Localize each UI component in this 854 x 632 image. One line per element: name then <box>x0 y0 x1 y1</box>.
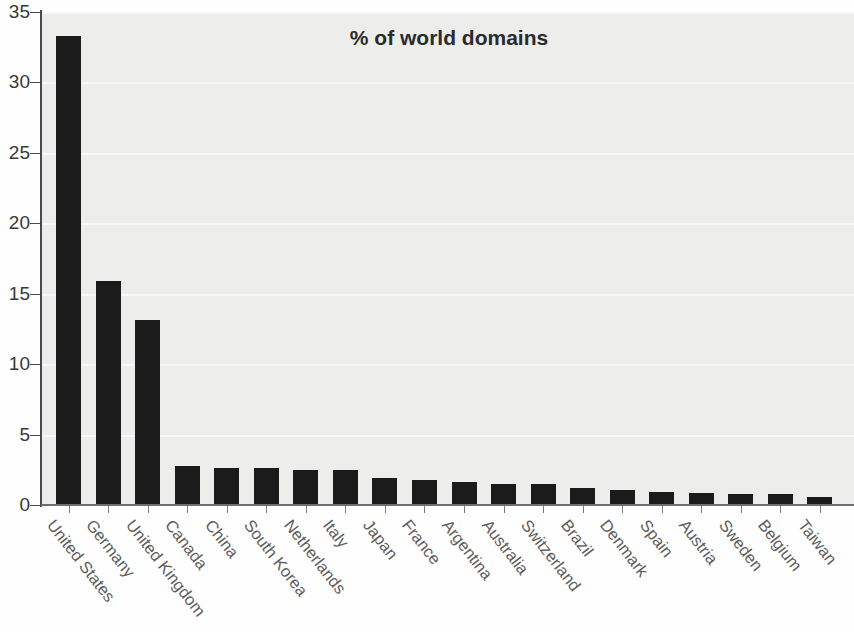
y-tick-mark <box>30 12 40 13</box>
bar <box>135 320 160 505</box>
bar <box>610 490 635 505</box>
bar <box>214 468 239 505</box>
bar <box>372 478 397 505</box>
y-tick-label: 30 <box>0 71 30 93</box>
x-tick-label: Spain <box>636 516 677 561</box>
x-tick-mark <box>227 506 228 513</box>
x-tick-mark <box>464 506 465 513</box>
y-axis-line <box>40 10 42 507</box>
bar <box>649 492 674 505</box>
x-tick-mark <box>543 506 544 513</box>
x-tick-label: Italy <box>319 516 353 552</box>
bar <box>531 484 556 505</box>
x-tick-mark <box>504 506 505 513</box>
bar <box>333 470 358 505</box>
y-tick-label: 10 <box>0 353 30 375</box>
y-tick-label: 0 <box>0 494 30 516</box>
x-tick-mark <box>701 506 702 513</box>
x-tick-mark <box>345 506 346 513</box>
x-tick-mark <box>780 506 781 513</box>
bar <box>293 470 318 505</box>
y-tick-mark <box>30 294 40 295</box>
x-tick-label: Japan <box>359 516 402 563</box>
bar <box>570 488 595 505</box>
x-tick-mark <box>424 506 425 513</box>
bar <box>175 466 200 505</box>
bar <box>56 36 81 505</box>
x-tick-label: Austria <box>675 516 722 568</box>
x-tick-mark <box>306 506 307 513</box>
x-tick-mark <box>385 506 386 513</box>
bar <box>452 482 477 505</box>
x-tick-mark <box>662 506 663 513</box>
y-tick-label: 35 <box>0 1 30 23</box>
x-axis-line <box>41 504 854 506</box>
x-tick-mark <box>622 506 623 513</box>
x-tick-label: France <box>398 516 445 568</box>
y-tick-mark <box>30 223 40 224</box>
x-tick-mark <box>741 506 742 513</box>
y-tick-mark <box>30 505 40 506</box>
bar <box>491 484 516 505</box>
y-tick-mark <box>30 82 40 83</box>
y-tick-mark <box>30 153 40 154</box>
x-tick-label: Brazil <box>557 516 597 560</box>
bar <box>412 480 437 505</box>
y-tick-label: 20 <box>0 212 30 234</box>
x-tick-mark <box>820 506 821 513</box>
y-tick-label: 25 <box>0 142 30 164</box>
y-tick-mark <box>30 435 40 436</box>
x-tick-mark <box>69 506 70 513</box>
y-tick-label: 15 <box>0 283 30 305</box>
y-tick-mark <box>30 364 40 365</box>
bar <box>254 468 279 505</box>
bars-layer <box>41 12 854 505</box>
x-tick-mark <box>108 506 109 513</box>
x-tick-mark <box>266 506 267 513</box>
chart-root: 05101520253035 United StatesGermanyUnite… <box>0 0 854 632</box>
x-tick-mark <box>187 506 188 513</box>
chart-title: % of world domains <box>241 26 657 50</box>
y-tick-label: 5 <box>0 424 30 446</box>
bar <box>96 281 121 505</box>
x-tick-mark <box>148 506 149 513</box>
x-tick-mark <box>583 506 584 513</box>
